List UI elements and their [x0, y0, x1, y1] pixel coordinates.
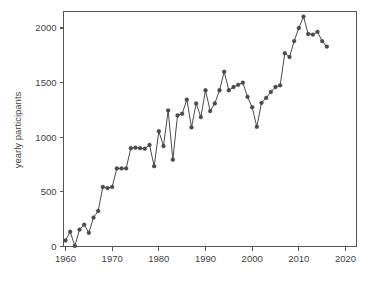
data-point	[306, 32, 310, 36]
data-point	[115, 166, 119, 170]
data-point	[204, 88, 208, 92]
y-tick-label: 0	[51, 241, 56, 252]
data-point	[292, 39, 296, 43]
data-point	[274, 85, 278, 89]
data-point	[250, 105, 254, 109]
data-point	[218, 88, 222, 92]
data-point	[138, 146, 142, 150]
x-tick-label: 1960	[55, 253, 76, 264]
data-point	[297, 26, 301, 30]
data-point	[325, 45, 329, 49]
data-point	[64, 239, 68, 243]
data-point	[199, 115, 203, 119]
x-tick-label: 2010	[288, 253, 309, 264]
data-point	[101, 185, 105, 189]
data-point	[92, 216, 96, 220]
data-point	[82, 223, 86, 227]
data-point	[311, 33, 315, 37]
y-axis-ticks: 0500100015002000	[35, 22, 63, 252]
data-point	[194, 101, 198, 105]
data-series	[64, 15, 329, 248]
x-axis-ticks: 1960197019801990200020102020	[55, 247, 356, 264]
data-point	[288, 55, 292, 59]
data-point	[213, 101, 217, 105]
data-point	[185, 98, 189, 102]
data-point	[283, 51, 287, 55]
y-axis-title: yearly participants	[12, 91, 23, 168]
data-point	[264, 96, 268, 100]
data-point	[222, 70, 226, 74]
x-tick-label: 2000	[242, 253, 263, 264]
data-point	[302, 15, 306, 19]
data-point	[134, 146, 138, 150]
data-point	[190, 126, 194, 130]
data-point	[171, 158, 175, 162]
data-point	[241, 81, 245, 85]
data-point	[96, 209, 100, 213]
data-point	[124, 166, 128, 170]
plot-frame	[64, 12, 357, 247]
series-line	[66, 17, 327, 246]
data-point	[106, 186, 110, 190]
data-point	[157, 129, 161, 133]
data-point	[162, 144, 166, 148]
axes-border	[64, 12, 357, 247]
data-point	[260, 101, 264, 105]
x-tick-label: 1970	[102, 253, 123, 264]
data-point	[208, 109, 212, 113]
x-tick-label: 1980	[148, 253, 169, 264]
x-tick-label: 1990	[195, 253, 216, 264]
data-point	[278, 83, 282, 87]
data-point	[180, 112, 184, 116]
data-point	[143, 147, 147, 151]
data-point	[87, 231, 91, 235]
data-point	[78, 228, 82, 232]
data-point	[232, 85, 236, 89]
data-point	[110, 185, 114, 189]
data-point	[68, 230, 72, 234]
data-point	[236, 83, 240, 87]
data-point	[120, 166, 124, 170]
data-point	[129, 146, 133, 150]
data-point	[269, 90, 273, 94]
y-tick-label: 2000	[35, 22, 56, 33]
x-tick-label: 2020	[335, 253, 356, 264]
y-tick-label: 1500	[35, 77, 56, 88]
chart-figure: 1960197019801990200020102020 05001000150…	[0, 0, 391, 282]
y-tick-label: 500	[41, 186, 57, 197]
data-point	[166, 109, 170, 113]
data-point	[148, 143, 152, 147]
data-point	[176, 114, 180, 118]
line-chart: 1960197019801990200020102020 05001000150…	[0, 0, 391, 282]
data-point	[255, 125, 259, 129]
data-point	[73, 244, 77, 248]
y-tick-label: 1000	[35, 132, 56, 143]
data-point	[316, 30, 320, 34]
data-point	[320, 39, 324, 43]
data-point	[227, 88, 231, 92]
data-point	[152, 164, 156, 168]
data-point	[246, 95, 250, 99]
